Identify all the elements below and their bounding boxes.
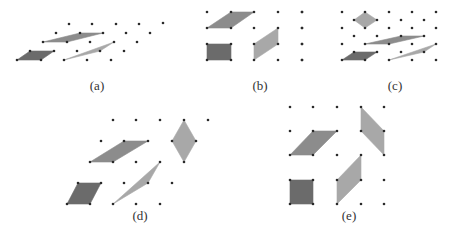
parallelogram-shape [43,33,103,42]
lattice-dot [171,182,174,185]
parallelogram-shape [207,44,231,60]
lattice-dot [115,23,118,26]
lattice-dot [112,161,115,164]
lattice-dot [360,154,363,157]
lattice-dot [253,59,256,62]
lattice-dot [289,203,292,206]
lattice-dot [253,27,256,30]
lattice-dot [301,27,304,30]
lattice-dot [376,19,379,22]
lattice-dot [136,41,139,44]
parallelogram-shape [64,42,114,60]
lattice-dot [162,22,165,25]
lattice-dot [336,106,339,109]
parallelogram-shape [290,131,337,155]
lattice-dot [289,154,292,157]
lattice-dot [159,161,162,164]
lattice-dot [312,106,315,109]
parallelogram-shape [389,44,436,60]
panel-a [16,23,152,62]
lattice-dot [312,179,315,182]
lattice-dot [341,27,344,30]
lattice-dot [312,130,315,133]
lattice-dot [435,27,438,30]
lattice-dot [341,11,344,14]
lattice-dot [230,11,233,14]
lattice-dot [89,41,92,44]
lattice-dot [89,161,92,164]
lattice-dot [301,11,304,14]
lattice-dot [77,182,80,185]
panel-d [66,119,210,206]
lattice-dot [147,140,150,143]
lattice-dot [123,50,126,53]
lattice-dot [183,161,186,164]
lattice-dot [435,43,438,46]
lattice-dot [183,119,186,122]
panel-b [162,11,304,62]
parallelogram-shape [207,12,254,28]
lattice-dot [383,130,386,133]
lattice-dot [91,23,94,26]
lattice-dot [376,51,379,54]
lattice-dot [289,130,292,133]
lattice-dot [400,19,403,22]
lattice-dot [206,59,209,62]
lattice-dot [364,59,367,62]
lattice-dot [99,50,102,53]
lattice-dot [289,179,292,182]
lattice-dot [400,35,403,38]
lattice-dot [411,11,414,14]
lattice-dot [195,140,198,143]
lattice-dot [100,140,103,143]
lattice-dot [364,11,367,14]
lattice-dot [364,43,367,46]
lattice-dot [341,59,344,62]
parallelogram-shape [67,183,101,204]
lattice-dot [123,182,126,185]
lattice-dot [86,59,89,62]
parallelogram-shape [342,52,377,60]
parallelogram-shape [365,36,424,44]
lattice-dot [42,41,45,44]
lattice-dot [301,43,304,46]
lattice-dot [435,11,438,14]
lattice-figure [0,0,453,239]
parallelogram-shape [354,12,377,28]
lattice-dot [113,41,116,44]
lattice-dot [29,50,32,53]
lattice-dot [66,41,69,44]
lattice-dot [206,27,209,30]
lattice-dot [336,203,339,206]
lattice-dot [383,106,386,109]
lattice-dot [125,32,128,35]
lattice-dot [100,182,103,185]
lattice-dot [277,11,280,14]
lattice-dot [411,43,414,46]
lattice-dot [135,161,138,164]
lattice-dot [159,119,162,122]
lattice-dot [112,119,115,122]
lattice-dot [383,179,386,182]
lattice-dot [149,32,152,35]
lattice-dot [123,140,126,143]
lattice-dot [435,59,438,62]
lattice-dot [53,50,56,53]
lattice-dot [230,43,233,46]
parallelogram-shape [17,51,54,60]
lattice-dot [253,43,256,46]
lattice-dot [360,130,363,133]
lattice-dot [66,203,69,206]
lattice-dot [110,59,113,62]
parallelogram-shape [337,155,361,204]
lattice-dot [423,19,426,22]
panel-label: (a) [90,78,104,94]
lattice-dot [40,59,43,62]
lattice-dot [423,51,426,54]
lattice-dot [277,27,280,30]
lattice-dot [341,43,344,46]
lattice-dot [364,27,367,30]
lattice-dot [55,32,58,35]
lattice-dot [383,154,386,157]
lattice-dot [102,32,105,35]
